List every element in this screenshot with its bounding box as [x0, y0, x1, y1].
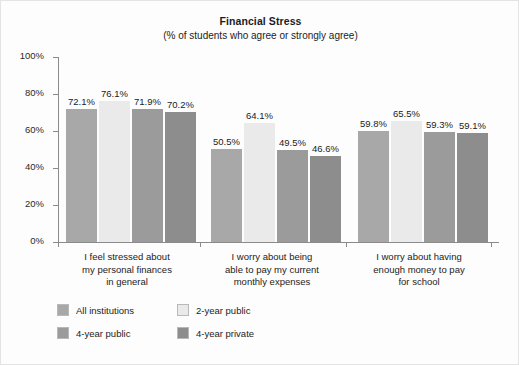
category-label-line: for school — [344, 276, 494, 289]
legend-item[interactable]: 2-year public — [177, 304, 250, 316]
y-axis-tick-label: 20% — [25, 198, 44, 209]
category-label-line: in general — [52, 276, 202, 289]
legend-swatch — [177, 304, 189, 316]
chart-figure: Financial Stress (% of students who agre… — [0, 0, 519, 365]
legend-label: All institutions — [76, 305, 134, 316]
category-label-line: I feel stressed about — [52, 251, 202, 264]
bar[interactable] — [211, 149, 242, 242]
bar[interactable] — [66, 109, 97, 242]
bar[interactable] — [165, 112, 196, 242]
bar-column[interactable]: 72.1% — [66, 109, 97, 242]
category-separator-tick — [58, 242, 59, 247]
bar-column[interactable]: 49.5% — [277, 150, 308, 242]
legend-label: 4-year public — [76, 328, 130, 339]
category-separator-tick — [491, 242, 492, 247]
category-label: I feel stressed aboutmy personal finance… — [52, 251, 202, 289]
category-label: I worry about beingable to pay my curren… — [197, 251, 347, 289]
bar[interactable] — [132, 109, 163, 242]
bar[interactable] — [99, 101, 130, 242]
y-axis-tick: 80% — [53, 94, 58, 95]
bar[interactable] — [358, 131, 389, 242]
bar-column[interactable]: 76.1% — [99, 101, 130, 242]
y-axis-tick-label: 100% — [20, 50, 44, 61]
legend-swatch — [57, 304, 69, 316]
y-axis-tick-label: 60% — [25, 124, 44, 135]
legend-item[interactable]: 4-year public — [57, 327, 130, 339]
bar-column[interactable]: 59.8% — [358, 131, 389, 242]
bar-column[interactable]: 59.1% — [457, 133, 488, 242]
legend-label: 4-year private — [196, 328, 254, 339]
plot-area: 0%20%40%60%80%100% 72.1%76.1%71.9%70.2%5… — [58, 57, 499, 242]
bar-column[interactable]: 50.5% — [211, 149, 242, 242]
bar-value-label: 64.1% — [237, 110, 283, 121]
x-axis-line — [58, 242, 499, 243]
chart-title-block: Financial Stress (% of students who agre… — [1, 15, 519, 41]
bar[interactable] — [391, 121, 422, 242]
category-label-line: I worry about having — [344, 251, 494, 264]
legend-item[interactable]: 4-year private — [177, 327, 254, 339]
bar-column[interactable]: 46.6% — [310, 156, 341, 242]
legend-swatch — [177, 327, 189, 339]
category-label-line: my personal finances — [52, 264, 202, 277]
legend-label: 2-year public — [196, 305, 250, 316]
chart-subtitle: (% of students who agree or strongly agr… — [1, 30, 519, 41]
y-axis-tick-label: 80% — [25, 87, 44, 98]
chart-title: Financial Stress — [1, 15, 519, 27]
bar[interactable] — [277, 150, 308, 242]
bar-value-label: 59.1% — [450, 120, 496, 131]
bar[interactable] — [457, 133, 488, 242]
legend-swatch — [57, 327, 69, 339]
category-label: I worry about havingenough money to payf… — [344, 251, 494, 289]
bar-value-label: 46.6% — [303, 143, 349, 154]
legend-item[interactable]: All institutions — [57, 304, 134, 316]
bar-value-label: 65.5% — [384, 108, 430, 119]
bar-value-label: 50.5% — [204, 136, 250, 147]
bar-column[interactable]: 65.5% — [391, 121, 422, 242]
category-label-line: enough money to pay — [344, 264, 494, 277]
y-axis-tick-label: 40% — [25, 161, 44, 172]
y-axis-tick: 100% — [53, 57, 58, 58]
y-axis-tick: 60% — [53, 131, 58, 132]
bar[interactable] — [424, 132, 455, 242]
category-label-line: I worry about being — [197, 251, 347, 264]
bar-value-label: 70.2% — [158, 99, 204, 110]
category-separator-tick — [200, 242, 201, 247]
y-axis-tick: 20% — [53, 205, 58, 206]
y-axis-tick-label: 0% — [30, 235, 44, 246]
category-label-line: able to pay my current — [197, 264, 347, 277]
bar[interactable] — [310, 156, 341, 242]
category-label-line: monthly expenses — [197, 276, 347, 289]
bar-column[interactable]: 70.2% — [165, 112, 196, 242]
bar-value-label: 59.8% — [351, 118, 397, 129]
y-axis-line — [58, 57, 59, 242]
y-axis-tick: 40% — [53, 168, 58, 169]
bar-column[interactable]: 71.9% — [132, 109, 163, 242]
category-separator-tick — [346, 242, 347, 247]
bar-column[interactable]: 59.3% — [424, 132, 455, 242]
